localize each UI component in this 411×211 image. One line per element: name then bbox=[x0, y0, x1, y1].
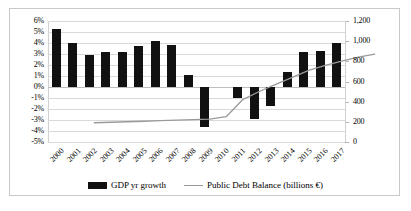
left-axis-tick-label: 5% bbox=[10, 28, 44, 36]
right-axis-tick-label: 200 bbox=[353, 118, 393, 126]
bar bbox=[52, 29, 61, 87]
category-axis-label: 2004 bbox=[115, 147, 132, 164]
left-axis-tick-label: 1% bbox=[10, 72, 44, 80]
legend-label-gdp: GDP yr growth bbox=[111, 181, 166, 190]
left-axis-tick-label: -2% bbox=[10, 105, 44, 113]
left-axis-tick-label: 0% bbox=[10, 83, 44, 91]
category-axis-label: 2008 bbox=[181, 147, 198, 164]
category-axis-label: 2013 bbox=[263, 147, 280, 164]
line-series-public-debt-balance bbox=[86, 33, 383, 154]
left-axis-tick-label: -4% bbox=[10, 127, 44, 135]
right-axis-tick-label: 600 bbox=[353, 78, 393, 86]
category-axis-label: 2001 bbox=[65, 147, 82, 164]
left-axis-tick-label: -5% bbox=[10, 138, 44, 146]
category-axis-label: 2002 bbox=[82, 147, 99, 164]
left-axis-tick-label: 3% bbox=[10, 50, 44, 58]
category-axis-labels: 2000200120022003200420052006200720082009… bbox=[48, 145, 345, 179]
left-axis-tick-label: -1% bbox=[10, 94, 44, 102]
chart-container: 2000200120022003200420052006200720082009… bbox=[9, 8, 400, 196]
legend-label-debt: Public Debt Balance (billions €) bbox=[207, 181, 323, 190]
right-axis-tick-label: 400 bbox=[353, 98, 393, 106]
line-swatch-icon bbox=[184, 185, 203, 186]
category-axis-label: 2009 bbox=[197, 147, 214, 164]
right-axis-tick bbox=[346, 41, 349, 42]
right-axis-tick bbox=[346, 122, 349, 123]
category-axis-label: 2012 bbox=[247, 147, 264, 164]
category-axis-label: 2007 bbox=[164, 147, 181, 164]
left-axis-tick-label: 4% bbox=[10, 39, 44, 47]
category-axis-label: 2005 bbox=[131, 147, 148, 164]
category-axis-label: 2017 bbox=[329, 147, 346, 164]
category-axis-label: 2015 bbox=[296, 147, 313, 164]
right-axis-tick bbox=[346, 82, 349, 83]
category-axis-label: 2014 bbox=[280, 147, 297, 164]
right-axis-tick-label: 1,200 bbox=[353, 17, 393, 25]
right-axis-tick-label: 800 bbox=[353, 57, 393, 65]
chart-legend: GDP yr growth Public Debt Balance (billi… bbox=[10, 177, 401, 193]
left-axis-tick-label: 2% bbox=[10, 61, 44, 69]
category-axis-label: 2016 bbox=[313, 147, 330, 164]
right-axis-tick bbox=[346, 61, 349, 62]
legend-item-public-debt-balance: Public Debt Balance (billions €) bbox=[184, 181, 323, 190]
category-axis-label: 2000 bbox=[49, 147, 66, 164]
left-axis-tick-label: -3% bbox=[10, 116, 44, 124]
right-axis-tick-label: 1,000 bbox=[353, 37, 393, 45]
right-axis-tick bbox=[346, 21, 349, 22]
bar-swatch-icon bbox=[88, 182, 107, 189]
category-axis-label: 2011 bbox=[230, 147, 247, 164]
gridline bbox=[48, 21, 345, 22]
right-axis-tick bbox=[346, 142, 349, 143]
left-axis-tick-label: 6% bbox=[10, 17, 44, 25]
right-axis-tick-label: 0 bbox=[353, 138, 393, 146]
legend-item-gdp-yr-growth: GDP yr growth bbox=[88, 181, 166, 190]
plot-area bbox=[48, 21, 345, 142]
category-axis-label: 2003 bbox=[98, 147, 115, 164]
bar bbox=[68, 43, 77, 87]
category-axis-label: 2006 bbox=[148, 147, 165, 164]
category-axis-label: 2010 bbox=[214, 147, 231, 164]
right-axis-tick bbox=[346, 102, 349, 103]
